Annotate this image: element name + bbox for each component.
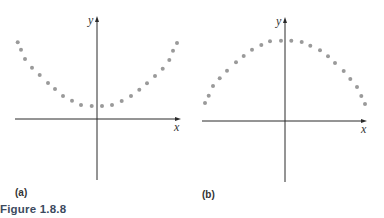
data-point xyxy=(110,103,114,107)
data-point xyxy=(175,41,179,45)
data-point xyxy=(279,39,283,43)
data-point xyxy=(359,94,363,98)
data-point xyxy=(218,76,222,80)
panel-a-axes: y x xyxy=(15,13,181,180)
data-point xyxy=(61,94,65,98)
data-point xyxy=(145,81,149,85)
data-point xyxy=(333,61,337,65)
data-point xyxy=(171,49,175,53)
data-point xyxy=(30,66,34,70)
data-point xyxy=(129,94,133,98)
data-point xyxy=(120,99,124,103)
data-point xyxy=(250,48,254,52)
data-point xyxy=(137,88,141,92)
data-point xyxy=(268,39,272,43)
data-point xyxy=(242,54,246,58)
data-point xyxy=(234,60,238,64)
data-point xyxy=(70,99,74,103)
data-point xyxy=(348,77,352,81)
data-point xyxy=(23,57,27,61)
data-point xyxy=(355,85,359,89)
data-point xyxy=(326,54,330,58)
data-point xyxy=(203,101,207,105)
data-point xyxy=(153,74,157,78)
data-point xyxy=(38,73,42,77)
panel-b-axes: y x xyxy=(202,14,367,182)
data-point xyxy=(308,44,312,48)
data-point xyxy=(259,43,263,47)
panel-a-label: (a) xyxy=(15,187,27,198)
data-point xyxy=(318,48,322,52)
data-point xyxy=(100,104,104,108)
data-point xyxy=(289,39,293,43)
figure-canvas: y x y x xyxy=(0,0,384,218)
data-point xyxy=(90,104,94,108)
data-point xyxy=(363,102,367,106)
data-point xyxy=(167,58,171,62)
panel-a-x-label: x xyxy=(173,120,180,134)
data-point xyxy=(211,84,215,88)
data-point xyxy=(225,69,229,73)
data-point xyxy=(207,94,211,98)
data-point xyxy=(46,81,50,85)
figure-caption: Figure 1.8.8 xyxy=(0,203,66,215)
data-point xyxy=(16,40,20,44)
panel-b-x-label: x xyxy=(360,122,367,136)
panel-b-y-label: y xyxy=(275,14,282,28)
data-point xyxy=(79,103,83,107)
data-point xyxy=(19,48,23,52)
data-point xyxy=(53,87,57,91)
panel-b-label: (b) xyxy=(202,189,215,200)
panel-a-y-label: y xyxy=(87,13,94,27)
panel-b-y-arrow-icon xyxy=(283,17,287,23)
data-point xyxy=(300,40,304,44)
data-point xyxy=(342,69,346,73)
data-point xyxy=(161,67,165,71)
panel-a-y-arrow-icon xyxy=(95,16,99,22)
